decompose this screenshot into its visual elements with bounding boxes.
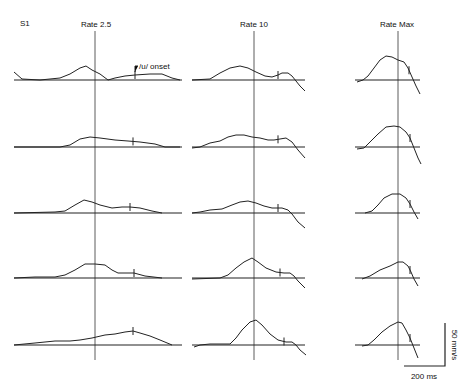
velocity-trace-rate_10-row-4: [192, 258, 305, 288]
velocity-trace-rate_2_5-row-4: [14, 264, 162, 278]
velocity-trace-rate_max-row-1: [357, 56, 420, 94]
traces-group: [14, 56, 421, 358]
velocity-trace-rate_2_5-row-2: [14, 137, 180, 147]
figure-canvas: S1 Rate 2.5 Rate 10 Rate Max /u/ onset 5…: [0, 0, 468, 388]
velocity-trace-rate_2_5-row-5: [14, 331, 172, 345]
velocity-trace-rate_10-row-5: [194, 320, 306, 355]
column-title-rate-10: Rate 10: [240, 20, 269, 29]
onset-annotation-label: /u/ onset: [139, 62, 170, 71]
velocity-trace-rate_max-row-2: [357, 126, 421, 164]
velocity-trace-rate_10-row-3: [192, 201, 305, 228]
scale-bar-horizontal-label: 200 ms: [411, 372, 437, 381]
figure: S1 Rate 2.5 Rate 10 Rate Max /u/ onset 5…: [0, 0, 468, 388]
scale-bar-vertical-label: 50 mm/s: [450, 330, 459, 361]
velocity-trace-rate_10-row-1: [192, 66, 305, 91]
column-title-rate-2-5: Rate 2.5: [81, 20, 112, 29]
subject-label: S1: [20, 19, 30, 28]
velocity-trace-rate_2_5-row-3: [14, 200, 162, 213]
column-title-rate-max: Rate Max: [380, 20, 414, 29]
